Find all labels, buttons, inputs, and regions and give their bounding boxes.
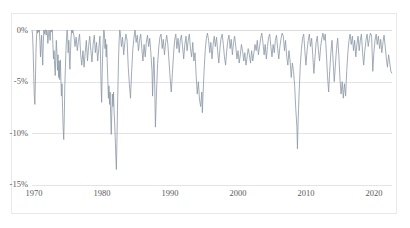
x-tick-label-1970: 1970 <box>26 189 43 198</box>
y-tick-label-1: -5% <box>14 77 28 86</box>
y-tick-label-0: 0% <box>17 26 28 35</box>
clipped-top-text <box>0 0 410 8</box>
x-tick-label-1990: 1990 <box>162 189 179 198</box>
x-tick-label-2000: 2000 <box>230 189 247 198</box>
x-tick-label-2020: 2020 <box>366 189 383 198</box>
drawdown-line-series <box>32 30 392 185</box>
x-tick-label-2010: 2010 <box>298 189 315 198</box>
gridline-minus15 <box>32 185 392 186</box>
chart-screenshot: 0% -5% -10% -15% 1970 1980 1990 2000 201… <box>0 0 410 228</box>
x-tick-label-1980: 1980 <box>94 189 111 198</box>
y-tick-label-2: -10% <box>10 129 28 138</box>
plot-area <box>32 30 392 185</box>
